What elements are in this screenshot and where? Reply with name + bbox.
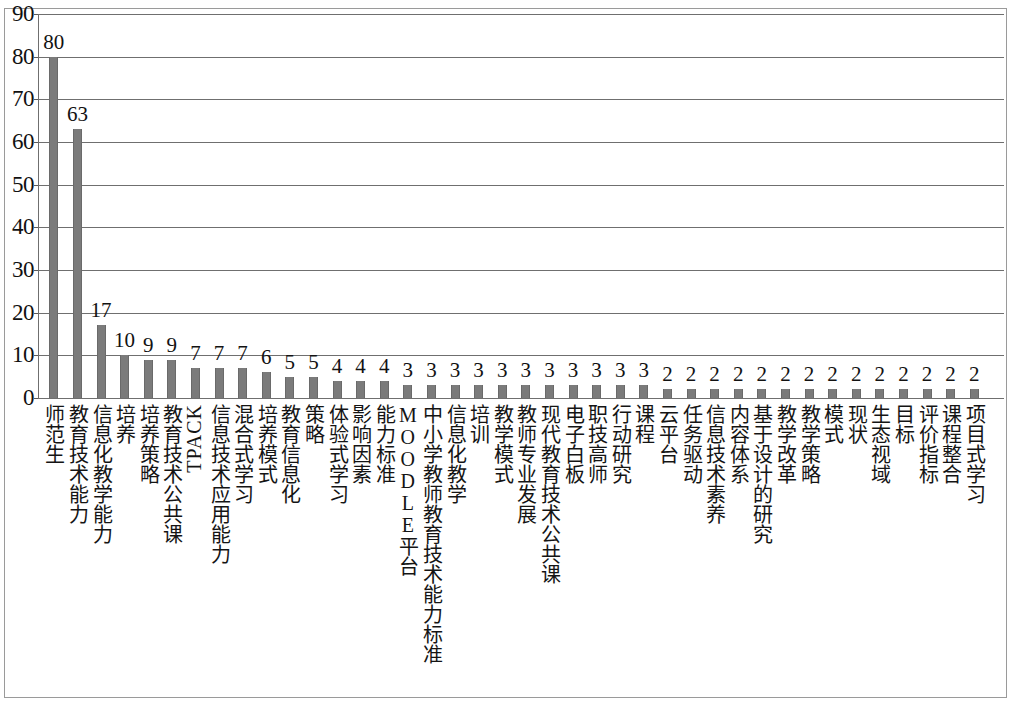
y-tick-label-10: 10 <box>0 343 34 366</box>
bar-value-label: 63 <box>57 104 97 125</box>
y-axis-tick-labels: 0102030405060708090 <box>0 14 34 398</box>
y-tick-label-80: 80 <box>0 45 34 68</box>
bar <box>805 389 814 398</box>
bar <box>120 355 129 398</box>
bar <box>757 389 766 398</box>
x-axis-label: TPACK <box>184 404 205 473</box>
x-axis-label: 项目式学习 <box>963 404 984 504</box>
bars-layer: 8063171099777655444333333333332222222222… <box>38 14 1004 398</box>
bar <box>262 372 271 398</box>
x-axis-label: 信息化教学 <box>444 404 465 504</box>
bar <box>710 389 719 398</box>
bar <box>521 385 530 398</box>
x-axis-label: 培养 <box>114 404 135 444</box>
bar <box>191 368 200 398</box>
x-axis-label: 信息化教学能力 <box>90 404 111 544</box>
bar <box>144 360 153 398</box>
y-tick-label-40: 40 <box>0 215 34 238</box>
x-axis-label: 教育技术能力 <box>66 404 87 524</box>
x-axis-label: 目标 <box>892 404 913 444</box>
x-axis-label: 教学改革 <box>774 404 795 484</box>
y-tick-50: 50 <box>0 173 34 196</box>
x-axis-label: 混合式学习 <box>232 404 253 504</box>
bar <box>356 381 365 398</box>
x-axis-label: 能力标准 <box>373 404 394 484</box>
bar <box>687 389 696 398</box>
bar <box>569 385 578 398</box>
bar <box>875 389 884 398</box>
bar <box>73 129 82 398</box>
y-tick-30: 30 <box>0 258 34 281</box>
x-axis-label: 信息技术素养 <box>704 404 725 524</box>
x-axis-label: 教育技术公共课 <box>161 404 182 544</box>
x-axis-label: 教学模式 <box>491 404 512 484</box>
x-axis-label: 电子白板 <box>562 404 583 484</box>
x-axis-label: 策略 <box>302 404 323 444</box>
y-tick-80: 80 <box>0 45 34 68</box>
bar <box>970 389 979 398</box>
y-tick-label-70: 70 <box>0 87 34 110</box>
y-tick-label-20: 20 <box>0 301 34 324</box>
x-axis-label: 现状 <box>845 404 866 444</box>
x-axis-label: 任务驱动 <box>680 404 701 484</box>
y-tick-label-90: 90 <box>0 2 34 25</box>
bar <box>474 385 483 398</box>
x-axis-label: 培养模式 <box>255 404 276 484</box>
y-tick-20: 20 <box>0 301 34 324</box>
x-axis-label: 职技高师 <box>586 404 607 484</box>
x-axis-label: 评价指标 <box>916 404 937 484</box>
x-axis-label: 基于设计的研究 <box>751 404 772 544</box>
x-axis-label: 影响因素 <box>350 404 371 484</box>
bar <box>167 360 176 398</box>
y-tick-label-0: 0 <box>0 386 34 409</box>
x-axis-label: 内容体系 <box>727 404 748 484</box>
bar-value-label: 2 <box>954 364 994 385</box>
y-tick-label-60: 60 <box>0 130 34 153</box>
y-tick-label-50: 50 <box>0 173 34 196</box>
bar-chart: 0102030405060708090 80631710997776554443… <box>0 0 1012 704</box>
gridline-0 <box>38 398 1004 399</box>
bar <box>333 381 342 398</box>
bar <box>309 377 318 398</box>
x-axis-label: 体验式学习 <box>326 404 347 504</box>
plot-area: 8063171099777655444333333333332222222222… <box>38 14 1004 398</box>
bar <box>923 389 932 398</box>
bar-value-label: 80 <box>34 32 74 53</box>
bar <box>852 389 861 398</box>
x-axis-label: 课程整合 <box>940 404 961 484</box>
x-axis-label: 现代教育技术公共课 <box>538 404 559 584</box>
x-axis-label: 教育信息化 <box>279 404 300 504</box>
x-axis-label: MOODLE平台 <box>397 404 418 576</box>
bar-value-label: 17 <box>81 300 121 321</box>
x-axis-label: 中小学教师教育技术能力标准 <box>420 404 441 664</box>
y-tick-90: 90 <box>0 2 34 25</box>
x-axis-label: 生态视域 <box>869 404 890 484</box>
bar <box>781 389 790 398</box>
bar <box>403 385 412 398</box>
y-tick-label-30: 30 <box>0 258 34 281</box>
bar <box>734 389 743 398</box>
x-axis-label: 师范生 <box>43 404 64 464</box>
bar <box>451 385 460 398</box>
bar <box>616 385 625 398</box>
y-tick-10: 10 <box>0 343 34 366</box>
bar <box>238 368 247 398</box>
bar <box>215 368 224 398</box>
x-axis-label: 教师专业发展 <box>515 404 536 524</box>
x-axis-label: 培训 <box>468 404 489 444</box>
y-tick-60: 60 <box>0 130 34 153</box>
x-axis-category-labels: 师范生教育技术能力信息化教学能力培养培养策略教育技术公共课TPACK信息技术应用… <box>38 404 1004 696</box>
bar <box>427 385 436 398</box>
bar <box>663 389 672 398</box>
bar <box>828 389 837 398</box>
x-axis-label: 培养策略 <box>137 404 158 484</box>
x-axis-label: 模式 <box>822 404 843 444</box>
bar <box>285 377 294 398</box>
bar <box>639 385 648 398</box>
y-tick-40: 40 <box>0 215 34 238</box>
bar <box>380 381 389 398</box>
x-axis-label: 云平台 <box>656 404 677 464</box>
x-axis-label: 信息技术应用能力 <box>208 404 229 564</box>
x-axis-label: 课程 <box>633 404 654 444</box>
x-axis-label: 行动研究 <box>609 404 630 484</box>
